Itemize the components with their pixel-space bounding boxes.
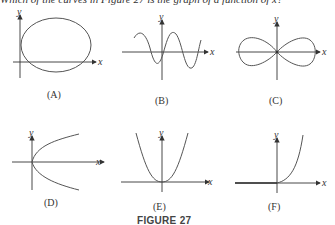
x-axis-label: x — [207, 176, 213, 187]
x-axis-label: x — [209, 46, 215, 57]
caption-f: (F) — [268, 201, 280, 213]
y-axis-label: y — [28, 127, 34, 138]
caption-d: (D) — [44, 197, 58, 209]
y-axis-label: y — [273, 129, 279, 140]
figure-27: y x (A) y x (B) y x (C) y x (D) y x (E) — [0, 0, 335, 225]
caption-b: (B) — [155, 95, 168, 107]
y-axis-label: y — [16, 6, 22, 17]
x-axis-label: x — [95, 156, 101, 167]
y-axis-label: y — [158, 11, 164, 22]
x-axis-label: x — [321, 46, 327, 57]
panel-c: y x (C) — [236, 13, 327, 107]
y-axis-label: y — [273, 13, 279, 24]
panel-f: y x (F) — [235, 129, 327, 213]
x-axis-label: x — [321, 177, 327, 188]
figure-title: FIGURE 27 — [137, 215, 192, 225]
caption-e: (E) — [153, 201, 166, 213]
caption-c: (C) — [269, 95, 282, 107]
panel-b: y x (B) — [122, 11, 215, 107]
x-axis-label: x — [97, 56, 103, 67]
y-axis-label: y — [158, 127, 164, 138]
panel-a: y x (A) — [13, 6, 103, 101]
panel-d: y x (D) — [12, 127, 104, 209]
caption-a: (A) — [47, 89, 61, 101]
panel-e: y x (E) FIGURE 27 — [121, 127, 213, 225]
